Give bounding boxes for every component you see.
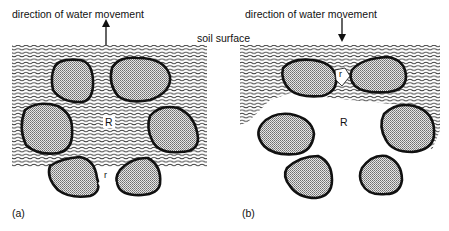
particle-a3	[22, 104, 72, 154]
panel-a-title: direction of water movement	[12, 8, 144, 20]
soil-surface-label: soil surface	[196, 32, 251, 44]
particle-b5	[285, 156, 332, 198]
particle-b1	[282, 60, 336, 97]
particle-a2	[111, 58, 170, 102]
panel-a-arrow-up-icon	[102, 19, 110, 45]
particle-b6	[360, 156, 402, 195]
particle-b3	[258, 114, 314, 155]
particle-b4	[381, 105, 434, 152]
panel-a-small-pore-label: r	[103, 170, 108, 180]
panel-a-caption: (a)	[12, 207, 25, 219]
panel-a-large-pore-label: R	[103, 116, 115, 128]
panel-b-large-pore-label: R	[340, 116, 348, 128]
panel-b-title: direction of water movement	[245, 8, 377, 20]
panel-b-arrow-down-icon	[338, 18, 346, 42]
panel-b-small-pore-label: r	[339, 69, 342, 79]
panel-b-caption: (b)	[242, 207, 255, 219]
particle-a1	[52, 60, 93, 102]
particle-a5	[49, 157, 98, 197]
